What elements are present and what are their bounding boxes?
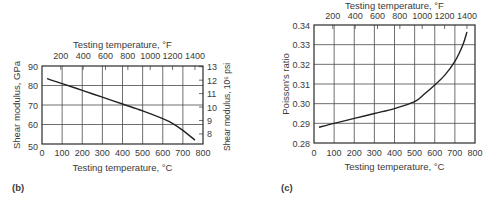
- x-tick-label: 200: [347, 148, 362, 158]
- panel-label: (b): [12, 182, 24, 193]
- y-tick-label: 0.33: [292, 40, 310, 50]
- poissons-ratio-chart: 01002003004005006007008000.280.290.300.3…: [280, 0, 483, 193]
- x-axis-label: Testing temperature, °C: [73, 162, 173, 173]
- x2-tick-label: 600: [98, 51, 113, 61]
- x2-tick-label: 400: [348, 11, 363, 21]
- x-tick-label: 500: [407, 148, 422, 158]
- y-axis-label: Poisson's ratio: [280, 53, 291, 114]
- y2-tick-label: 12: [207, 76, 217, 86]
- y-tick-label: 0.34: [292, 21, 310, 31]
- y2-tick-label: 9: [207, 116, 212, 126]
- x-tick-label: 600: [427, 148, 442, 158]
- x2-tick-label: 1000: [412, 11, 432, 21]
- y2-tick-label: 13: [207, 62, 217, 72]
- y-tick-label: 0.29: [292, 119, 310, 129]
- y-tick-label: 80: [28, 81, 38, 91]
- y2-tick-label: 8: [207, 129, 212, 139]
- y-tick-label: 0.32: [292, 60, 310, 70]
- x-tick-label: 200: [75, 148, 90, 158]
- y-tick-label: 50: [28, 142, 38, 152]
- x2-tick-label: 1400: [457, 11, 477, 21]
- x-tick-label: 0: [311, 148, 316, 158]
- x-tick-label: 300: [95, 148, 110, 158]
- x-tick-label: 400: [387, 148, 402, 158]
- y-tick-label: 0.30: [292, 99, 310, 109]
- x2-tick-label: 400: [76, 51, 91, 61]
- x-tick-label: 700: [175, 148, 190, 158]
- x-axis-label: Testing temperature, °C: [345, 161, 445, 172]
- y-tick-label: 0.31: [292, 80, 310, 90]
- y-tick-label: 90: [28, 62, 38, 72]
- x-tick-label: 700: [447, 148, 462, 158]
- x2-axis-label: Testing temperature, °F: [345, 0, 444, 11]
- y2-axis-label: Shear modulus, 10⁶ psi: [222, 63, 232, 151]
- x2-tick-label: 800: [392, 11, 407, 21]
- data-curve: [47, 79, 195, 140]
- x2-tick-label: 200: [325, 11, 340, 21]
- x2-tick-label: 600: [370, 11, 385, 21]
- x-tick-label: 800: [195, 148, 210, 158]
- x-tick-label: 600: [155, 148, 170, 158]
- y2-tick-label: 10: [207, 103, 217, 113]
- x-tick-label: 100: [55, 148, 70, 158]
- y-tick-label: 0.28: [292, 139, 310, 149]
- data-curve: [319, 32, 467, 127]
- x2-tick-label: 1400: [185, 51, 205, 61]
- y2-tick-label: 11: [207, 89, 216, 99]
- figure: 0100200300400500600700800506070809020040…: [0, 0, 489, 203]
- x2-tick-label: 1200: [163, 51, 183, 61]
- x-tick-label: 800: [467, 148, 482, 158]
- shear-modulus-chart: 0100200300400500600700800506070809020040…: [11, 39, 232, 193]
- x2-tick-label: 1000: [140, 51, 160, 61]
- panel-label: (c): [281, 182, 293, 193]
- x-tick-label: 400: [115, 148, 130, 158]
- x2-tick-label: 800: [120, 51, 135, 61]
- x-tick-label: 100: [327, 148, 342, 158]
- x-tick-label: 500: [135, 148, 150, 158]
- x2-tick-label: 200: [53, 51, 68, 61]
- y-axis-label: Shear modulus, GPa: [11, 60, 22, 149]
- x2-tick-label: 1200: [435, 11, 455, 21]
- x-tick-label: 300: [367, 148, 382, 158]
- y-tick-label: 60: [28, 120, 38, 130]
- x2-axis-label: Testing temperature, °F: [73, 39, 172, 50]
- x-tick-label: 0: [39, 148, 44, 158]
- y-tick-label: 70: [28, 101, 38, 111]
